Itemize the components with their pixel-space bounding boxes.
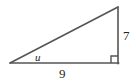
right-angle-marker xyxy=(111,56,118,63)
hypotenuse-line xyxy=(10,7,118,63)
angle-label-u: u xyxy=(35,52,41,63)
height-length-label: 7 xyxy=(123,29,130,42)
base-length-label: 9 xyxy=(59,67,66,80)
geometry-figure: u 9 7 xyxy=(0,0,136,82)
right-triangle-shape xyxy=(0,0,136,82)
